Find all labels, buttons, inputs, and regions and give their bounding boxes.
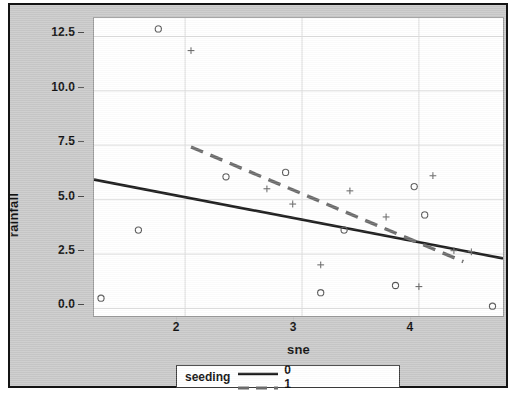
- legend-entries: 01: [238, 363, 298, 391]
- y-tick-label: 12.5: [29, 25, 75, 39]
- x-tick-label: 2: [161, 320, 191, 334]
- marker-circle: [392, 282, 398, 288]
- legend-line-swatch: [238, 379, 278, 389]
- marker-circle: [283, 169, 289, 175]
- marker-circle: [422, 212, 428, 218]
- x-tick-label: 4: [395, 320, 425, 334]
- x-axis-title: sne: [93, 342, 504, 357]
- legend-entry-1[interactable]: 1: [238, 377, 291, 391]
- chart-frame: rainfall sne 0.02.55.07.510.012.5 234 se…: [8, 3, 508, 388]
- marker-plus: [188, 47, 195, 54]
- legend-label: 0: [284, 363, 291, 377]
- gridlines: [94, 18, 503, 316]
- marker-plus: [383, 214, 390, 221]
- y-tick-mark: [78, 196, 84, 197]
- marker-plus: [264, 185, 271, 192]
- y-tick-mark: [78, 87, 84, 88]
- marker-circle: [223, 174, 229, 180]
- marker-circle: [155, 26, 161, 32]
- fit-line-1: [191, 147, 463, 262]
- y-axis-title: rainfall: [6, 155, 21, 275]
- legend-line-swatch: [238, 365, 278, 375]
- x-tick-label: 3: [278, 320, 308, 334]
- marker-plus: [416, 283, 423, 290]
- marker-circle: [135, 227, 141, 233]
- y-tick-label: 2.5: [29, 243, 75, 257]
- marker-plus: [289, 201, 296, 208]
- y-tick-label: 7.5: [29, 134, 75, 148]
- marker-circle: [318, 290, 324, 296]
- marker-plus: [317, 262, 324, 269]
- chart-screenshot: · · · rainfall sne 0.02.55.07.510.012.5 …: [0, 0, 516, 401]
- marker-plus: [347, 188, 354, 195]
- marker-circle: [411, 184, 417, 190]
- marker-circle: [98, 295, 104, 301]
- legend-title: seeding: [185, 370, 230, 384]
- y-tick-mark: [78, 304, 84, 305]
- plot-svg: [94, 18, 503, 316]
- regression-lines: [94, 147, 503, 262]
- y-tick-mark: [78, 141, 84, 142]
- y-tick-label: 5.0: [29, 189, 75, 203]
- legend-label: 1: [284, 377, 291, 391]
- y-tick-mark: [78, 32, 84, 33]
- y-tick-mark: [78, 250, 84, 251]
- data-markers: [98, 26, 496, 310]
- marker-plus: [430, 172, 437, 179]
- legend[interactable]: seeding 01: [176, 365, 400, 388]
- y-tick-label: 10.0: [29, 80, 75, 94]
- legend-entry-0[interactable]: 0: [238, 363, 291, 377]
- y-tick-label: 0.0: [29, 297, 75, 311]
- plot-area: [93, 17, 504, 317]
